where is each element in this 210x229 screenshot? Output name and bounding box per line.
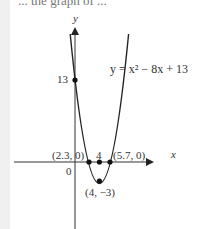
- origin-label: 0: [66, 166, 72, 177]
- equation-label: y = x² − 8x + 13: [110, 63, 188, 75]
- root-left-label: (2.3, 0): [52, 150, 84, 161]
- root-right-point: [107, 159, 112, 164]
- y-axis-label: y: [73, 13, 78, 24]
- root-right-label: (5.7, 0): [113, 150, 145, 161]
- axis-of-symmetry-label: 4: [96, 150, 102, 161]
- vertex-label: (4, −3): [85, 187, 115, 198]
- y-intercept-point: [72, 77, 77, 82]
- y-intercept-label: 13: [57, 74, 68, 85]
- root-left-point: [86, 159, 91, 164]
- x-axis-label: x: [171, 149, 176, 160]
- vertex-point: [97, 178, 102, 183]
